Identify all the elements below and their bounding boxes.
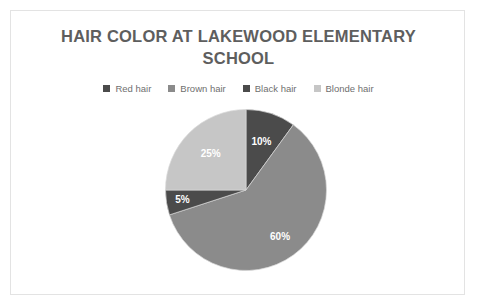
pie-slice-group (166, 110, 327, 271)
legend-item-brown-hair[interactable]: Brown hair (168, 83, 225, 94)
chart-card: HAIR COLOR AT LAKEWOOD ELEMENTARY SCHOOL… (10, 10, 465, 295)
legend-swatch-icon (168, 85, 175, 92)
pie-data-label-group: 10%60%5%25% (175, 136, 290, 241)
legend-item-black-hair[interactable]: Black hair (243, 83, 297, 94)
pie-data-label: 60% (270, 231, 290, 242)
pie-data-label: 5% (175, 194, 190, 205)
legend-item-label: Brown hair (180, 83, 225, 94)
legend-item-label: Black hair (255, 83, 297, 94)
legend-item-red-hair[interactable]: Red hair (103, 83, 151, 94)
legend-item-label: Blonde hair (326, 83, 374, 94)
legend-swatch-icon (103, 85, 110, 92)
legend-swatch-icon (243, 85, 250, 92)
pie-slice[interactable] (246, 110, 293, 191)
pie-slice[interactable] (166, 110, 247, 191)
pie-data-label: 10% (251, 136, 271, 147)
pie-chart-svg: 10%60%5%25% (165, 109, 327, 271)
pie-slice[interactable] (166, 190, 247, 215)
legend-item-blonde-hair[interactable]: Blonde hair (314, 83, 374, 94)
pie-data-label: 25% (201, 148, 221, 159)
pie-slice[interactable] (169, 125, 326, 271)
chart-title: HAIR COLOR AT LAKEWOOD ELEMENTARY SCHOOL (41, 25, 436, 70)
chart-legend: Red hair Brown hair Black hair Blonde ha… (11, 83, 466, 94)
legend-swatch-icon (314, 85, 321, 92)
legend-item-label: Red hair (115, 83, 151, 94)
